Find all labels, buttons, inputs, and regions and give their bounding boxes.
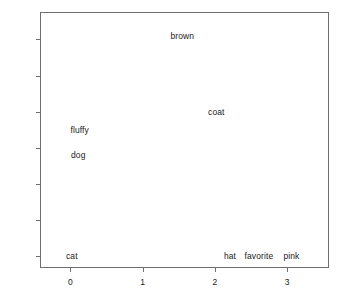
y-tick-mark (36, 256, 40, 257)
y-tick-mark (36, 148, 40, 149)
y-tick-mark (36, 76, 40, 77)
axis-layer: 0.00.51.01.52.02.53.0 0123 catdogfluffyb… (0, 0, 348, 304)
data-point-label: hat (224, 251, 236, 261)
y-tick-mark (36, 112, 40, 113)
y-tick-mark (36, 184, 40, 185)
x-tick-label: 3 (285, 277, 290, 287)
x-tick-mark (70, 268, 71, 272)
x-tick-mark (215, 268, 216, 272)
y-tick-mark (36, 39, 40, 40)
x-tick-label: 2 (212, 277, 217, 287)
x-tick-mark (287, 268, 288, 272)
x-tick-label: 1 (140, 277, 145, 287)
data-point-label: brown (171, 31, 195, 41)
data-point-label: coat (208, 107, 224, 117)
y-tick-mark (36, 220, 40, 221)
data-point-label: dog (71, 150, 85, 160)
x-tick-label: 0 (68, 277, 73, 287)
data-point-label: pink (283, 251, 299, 261)
x-tick-mark (143, 268, 144, 272)
data-point-label: fluffy (71, 125, 89, 135)
data-point-label: favorite (245, 251, 274, 261)
chart-canvas: 0.00.51.01.52.02.53.0 0123 catdogfluffyb… (0, 0, 348, 304)
data-point-label: cat (66, 251, 78, 261)
